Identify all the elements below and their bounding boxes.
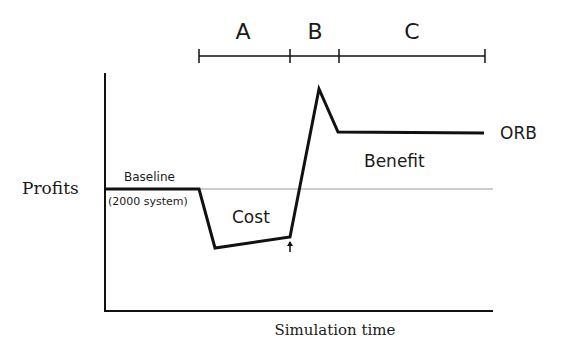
diagram-canvas: A B C Profits Simulation time Baseline (…	[0, 0, 565, 344]
orb-series-label: ORB	[500, 123, 537, 143]
phase-label-a: A	[235, 19, 250, 44]
cost-label: Cost	[232, 207, 270, 227]
baseline-sublabel: (2000 system)	[108, 195, 188, 208]
benefit-label: Benefit	[364, 151, 425, 171]
baseline-label: Baseline	[124, 170, 175, 184]
phase-bracket	[199, 49, 485, 63]
phase-label-b: B	[307, 19, 322, 44]
phase-label-c: C	[404, 19, 419, 44]
x-axis-label: Simulation time	[275, 321, 396, 339]
y-axis-label: Profits	[22, 178, 79, 198]
profit-curve	[105, 89, 484, 248]
arrow-up-icon	[287, 241, 293, 252]
